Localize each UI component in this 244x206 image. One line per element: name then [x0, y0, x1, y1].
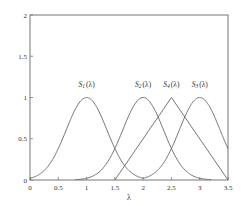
x-tick-label: 1.5 — [110, 184, 119, 192]
y-tick-label: 2 — [24, 12, 28, 20]
series-label-subscript: 3 — [194, 83, 198, 89]
x-axis: 00.511.522.533.5 — [28, 177, 233, 192]
x-tick-label: 0 — [28, 184, 32, 192]
y-tick-label: 0 — [24, 177, 28, 185]
series-label-argument: (λ) — [171, 80, 180, 89]
x-tick-label: 3 — [198, 184, 202, 192]
series-label-subscript: 1 — [82, 83, 85, 89]
series-label: S3(λ) — [192, 80, 209, 90]
x-tick-label: 0.5 — [54, 184, 63, 192]
x-tick-label: 2 — [141, 184, 145, 192]
series-group — [30, 98, 228, 181]
series-label-argument: (λ) — [199, 80, 208, 89]
y-axis: 00.511.52 — [18, 12, 33, 185]
chart: 00.511.522.533.5 00.511.52 S1(λ)S2(λ)S4(… — [0, 0, 244, 206]
x-tick-label: 1 — [85, 184, 89, 192]
x-axis-title: λ — [127, 193, 131, 202]
series-labels: S1(λ)S2(λ)S4(λ)S3(λ) — [79, 80, 209, 90]
y-tick-label: 0.5 — [18, 135, 27, 143]
x-tick-label: 3.5 — [224, 184, 233, 192]
series-label-argument: (λ) — [143, 80, 152, 89]
series-line-s1 — [30, 98, 143, 179]
series-label-argument: (λ) — [86, 80, 95, 89]
series-label-subscript: 4 — [167, 83, 170, 89]
y-tick-label: 1 — [24, 94, 28, 102]
series-label: S4(λ) — [163, 80, 180, 90]
series-label: S1(λ) — [79, 80, 96, 90]
series-label-subscript: 2 — [139, 83, 142, 89]
series-line-s3 — [143, 98, 228, 179]
x-tick-label: 2.5 — [167, 184, 176, 192]
y-tick-label: 1.5 — [18, 53, 27, 61]
series-label: S2(λ) — [135, 80, 152, 90]
